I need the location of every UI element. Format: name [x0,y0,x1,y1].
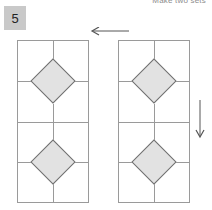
grid-line-vertical-top [53,41,54,59]
grid-line-vertical-top [154,123,155,141]
right-cell-bottom [119,122,189,203]
diamond-shape [131,140,176,185]
diamond-shape [30,140,75,185]
grid-line-vertical-bottom [53,184,54,202]
question-number-badge: 5 [4,6,26,30]
right-panel [118,40,190,203]
diamond-shape [131,59,176,104]
left-panel [17,40,89,203]
diamond-shape [30,59,75,104]
grid-line-vertical-bottom [154,104,155,122]
left-cell-top [18,41,88,122]
arrow-down-icon [195,100,207,140]
grid-line-vertical-bottom [154,184,155,202]
arrow-left-icon [90,27,130,39]
grid-line-vertical-top [154,41,155,59]
grid-line-vertical-bottom [53,104,54,122]
right-cell-top [119,41,189,122]
left-cell-bottom [18,122,88,203]
grid-line-vertical-top [53,123,54,141]
instruction-text: Make two sets [152,0,206,5]
